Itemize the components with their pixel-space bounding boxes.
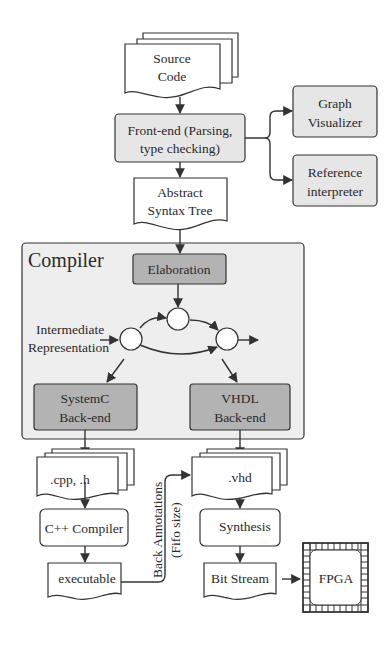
frontend-box: Front-end (Parsing, type checking) xyxy=(115,114,245,162)
arrow-frontend-interpreter xyxy=(265,138,292,180)
ir-label-line2: Representation xyxy=(28,340,109,355)
elaboration-label: Elaboration xyxy=(148,262,211,277)
cpp-compiler-box: C++ Compiler xyxy=(40,509,128,546)
elaboration-box: Elaboration xyxy=(133,254,226,284)
systemc-line2: Back-end xyxy=(59,410,111,425)
toolchain-diagram: Source Code Front-end (Parsing, type che… xyxy=(0,0,391,646)
ir-node-2 xyxy=(167,308,189,330)
ast-doc: Abstract Syntax Tree xyxy=(134,178,227,230)
ir-label-line1: Intermediate xyxy=(36,322,104,337)
cpp-compiler-label: C++ Compiler xyxy=(45,521,124,536)
frontend-line2: type checking) xyxy=(140,141,220,156)
arrow-frontend-graphviz xyxy=(245,111,292,138)
systemc-backend-box: SystemC Back-end xyxy=(34,384,137,430)
ast-line2: Syntax Tree xyxy=(148,203,213,218)
reference-interpreter-line1: Reference xyxy=(308,165,363,180)
bitstream-label: Bit Stream xyxy=(211,571,270,586)
back-annotations-label: Back Annotations (Fifo size) xyxy=(150,482,183,578)
reference-interpreter-box: Reference interpreter xyxy=(293,155,377,206)
ir-node-3 xyxy=(216,328,238,350)
frontend-line1: Front-end (Parsing, xyxy=(128,123,233,138)
synthesis-box: Synthesis xyxy=(200,509,280,546)
synthesis-label: Synthesis xyxy=(219,519,271,534)
vhd-files-label: .vhd xyxy=(228,470,252,485)
executable-label: executable xyxy=(58,571,116,586)
vhdl-backend-line1: VHDL xyxy=(221,391,259,406)
executable-doc: executable xyxy=(48,563,121,599)
graph-visualizer-line1: Graph xyxy=(318,96,352,111)
ir-node-1 xyxy=(120,328,142,350)
ast-line1: Abstract xyxy=(157,185,203,200)
source-code-line2: Code xyxy=(158,69,187,84)
svg-text:Back Annotations: Back Annotations xyxy=(150,482,165,578)
vhd-files-doc: .vhd xyxy=(192,449,287,499)
source-code-doc: Source Code xyxy=(125,33,238,98)
fpga-label: FPGA xyxy=(319,571,354,586)
graph-visualizer-box: Graph Visualizer xyxy=(293,86,377,137)
fpga-chip: FPGA xyxy=(303,543,368,612)
svg-text:(Fifo size): (Fifo size) xyxy=(168,502,183,558)
systemc-line1: SystemC xyxy=(61,391,110,406)
vhdl-backend-box: VHDL Back-end xyxy=(190,384,290,430)
source-code-line1: Source xyxy=(153,51,191,66)
bitstream-doc: Bit Stream xyxy=(204,563,276,599)
reference-interpreter-line2: interpreter xyxy=(307,184,364,199)
vhdl-backend-line2: Back-end xyxy=(214,410,266,425)
cpp-files-label: .cpp, .h xyxy=(50,472,90,487)
compiler-title: Compiler xyxy=(28,249,104,272)
graph-visualizer-line2: Visualizer xyxy=(308,115,363,130)
